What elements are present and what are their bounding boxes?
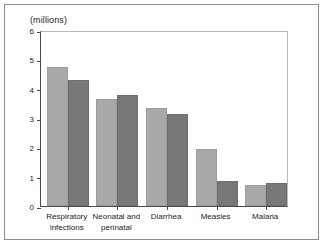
bar-1985 — [245, 185, 266, 206]
x-axis-category-label: Malaria — [233, 212, 297, 223]
y-axis-tick-mark — [37, 178, 41, 179]
y-axis-tick-label: 4 — [19, 85, 34, 96]
bar-1990 — [117, 95, 138, 206]
bar-group — [245, 32, 287, 206]
bar-1985 — [146, 108, 167, 206]
y-axis-tick-label: 2 — [19, 143, 34, 154]
y-axis-tick-mark — [37, 90, 41, 91]
bar-1985 — [47, 67, 68, 206]
x-axis-tick-mark — [266, 206, 267, 210]
bar-1985 — [96, 99, 117, 206]
y-axis-tick-mark — [37, 149, 41, 150]
y-axis-tick-label: 0 — [19, 202, 34, 213]
x-axis-tick-mark — [117, 206, 118, 210]
y-axis-tick-label: 3 — [19, 114, 34, 125]
y-axis-tick-label: 5 — [19, 55, 34, 66]
y-axis-tick-label: 1 — [19, 173, 34, 184]
x-axis-tick-mark — [68, 206, 69, 210]
chart-figure: (millions) 19851990 0123456 Respiratory … — [0, 0, 324, 245]
plot-area: 0123456 — [40, 31, 288, 207]
x-axis-tick-mark — [167, 206, 168, 210]
x-axis-tick-mark — [217, 206, 218, 210]
bar-1990 — [167, 114, 188, 206]
y-axis-tick-mark — [37, 208, 41, 209]
y-axis-tick-mark — [37, 32, 41, 33]
y-axis-tick-mark — [37, 120, 41, 121]
y-axis-unit-label: (millions) — [30, 15, 67, 25]
bar-1990 — [217, 181, 238, 206]
bar-group — [47, 32, 89, 206]
bar-1990 — [68, 80, 89, 206]
y-axis-tick-mark — [37, 61, 41, 62]
bar-group — [146, 32, 188, 206]
bar-1985 — [196, 149, 217, 206]
bar-group — [196, 32, 238, 206]
bar-1990 — [266, 183, 287, 206]
y-axis-tick-label: 6 — [19, 26, 34, 37]
bar-group — [96, 32, 138, 206]
